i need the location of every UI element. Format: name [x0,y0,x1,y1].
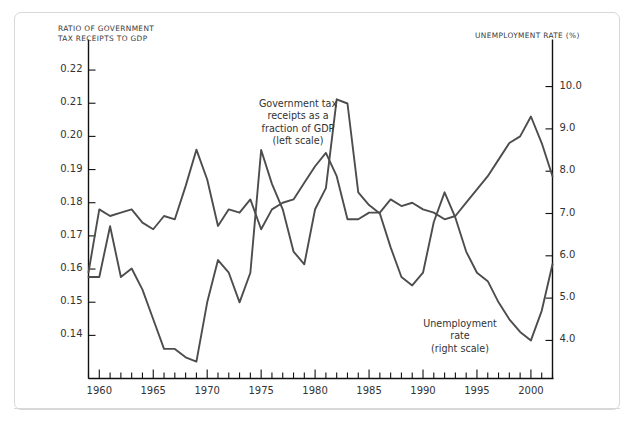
y-axis-left-tick-label: 0.22 [41,63,83,74]
x-axis-tick-label: 1965 [127,385,179,396]
chart-figure: RATIO OF GOVERNMENT TAX RECEIPTS TO GDP … [0,0,635,426]
y-axis-right-tick-label: 8.0 [560,164,604,175]
x-axis-tick-label: 1990 [397,385,449,396]
y-axis-right-tick-label: 6.0 [560,249,604,260]
x-axis-tick-label: 1995 [451,385,503,396]
y-axis-left-tick-label: 0.14 [41,328,83,339]
annotation-unemployment: Unemployment rate (right scale) [392,318,528,355]
left-axis-title: RATIO OF GOVERNMENT TAX RECEIPTS TO GDP [58,24,154,43]
x-axis-tick-label: 1960 [73,385,125,396]
annotation-tax-receipts: Government tax receipts as a fraction of… [223,98,373,148]
y-axis-right-tick-label: 7.0 [560,207,604,218]
x-axis-tick-label: 1970 [181,385,233,396]
y-axis-right-tick-label: 5.0 [560,291,604,302]
y-axis-left-tick-label: 0.16 [41,262,83,273]
plot-area [0,0,635,426]
x-axis-tick-label: 1975 [235,385,287,396]
x-axis-tick-label: 1980 [289,385,341,396]
x-axis-tick-label: 1985 [343,385,395,396]
right-axis-title: UNEMPLOYMENT RATE (%) [475,31,580,41]
y-axis-left-tick-label: 0.15 [41,295,83,306]
y-axis-right-tick-label: 9.0 [560,122,604,133]
y-axis-left-tick-label: 0.21 [41,96,83,107]
chart-svg [0,0,635,426]
y-axis-left-tick-label: 0.18 [41,196,83,207]
x-axis-tick-label: 2000 [505,385,557,396]
y-axis-left-tick-label: 0.20 [41,129,83,140]
y-axis-left-tick-label: 0.19 [41,163,83,174]
y-axis-left-tick-label: 0.17 [41,229,83,240]
y-axis-right-tick-label: 10.0 [560,80,604,91]
y-axis-right-tick-label: 4.0 [560,333,604,344]
